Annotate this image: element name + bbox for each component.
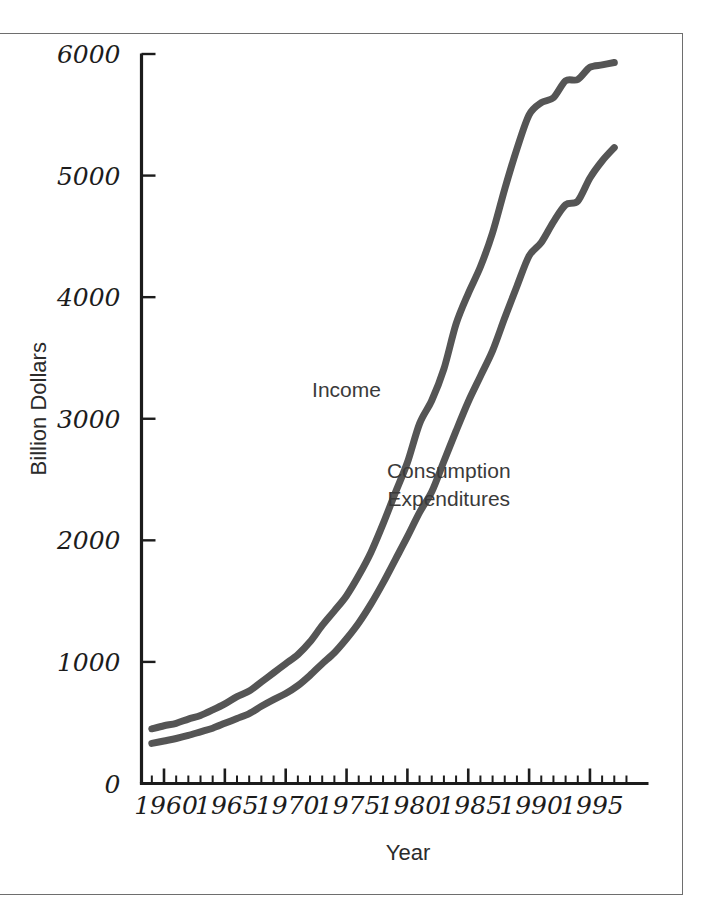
series-label-consumption-line2: Expenditures [387, 487, 510, 510]
x-tick-label: 1980 [378, 791, 442, 820]
tick-marks [142, 54, 627, 784]
y-tick-label: 1000 [57, 648, 121, 677]
x-tick-label: 1995 [560, 791, 624, 820]
series-label-income: Income [312, 378, 381, 401]
x-tick-label: 1975 [317, 791, 381, 820]
x-tick-label: 1965 [195, 791, 259, 820]
y-tick-label: 6000 [57, 40, 121, 69]
y-tick-label: 0 [105, 770, 121, 799]
x-axis-title: Year [386, 840, 430, 865]
data-series [152, 63, 614, 744]
x-tick-labels: 19601965197019751980198519901995 [134, 791, 624, 820]
y-tick-label: 5000 [57, 162, 121, 191]
y-tick-labels: 0100020003000400050006000 [56, 40, 121, 799]
x-tick-label: 1960 [134, 791, 198, 820]
x-tick-label: 1985 [438, 791, 502, 820]
series-line [152, 63, 614, 729]
chart-figure: 0100020003000400050006000 19601965197019… [0, 0, 707, 917]
y-tick-label: 4000 [56, 283, 121, 312]
line-chart-svg: 0100020003000400050006000 19601965197019… [0, 0, 707, 917]
y-tick-label: 3000 [57, 405, 121, 434]
axes [140, 54, 649, 784]
series-line [152, 148, 614, 744]
x-tick-label: 1990 [499, 791, 563, 820]
x-tick-label: 1970 [256, 791, 320, 820]
y-tick-label: 2000 [56, 526, 121, 555]
series-label-consumption-line1: Consumption [387, 459, 511, 482]
y-axis-title: Billion Dollars [26, 342, 51, 475]
